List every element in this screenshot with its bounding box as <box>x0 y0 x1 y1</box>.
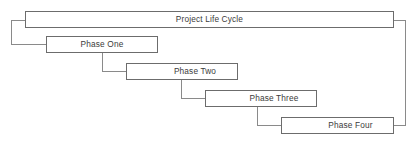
connector-phase-three-to-phase-four <box>258 107 282 126</box>
node-project-life-cycle[interactable]: Project Life Cycle <box>25 11 394 28</box>
node-phase-two[interactable]: Phase Two <box>126 63 238 80</box>
right-bracket-connector <box>394 21 406 126</box>
node-label-phase-two: Phase Two <box>127 67 237 75</box>
node-label-project-life-cycle: Project Life Cycle <box>26 15 393 23</box>
connector-phase-one-to-phase-two <box>103 53 127 72</box>
node-label-phase-one: Phase One <box>47 40 157 48</box>
project-life-cycle-diagram: Project Life Cycle Phase One Phase Two P… <box>0 0 420 142</box>
connector-phase-two-to-phase-three <box>182 80 206 99</box>
node-phase-three[interactable]: Phase Three <box>205 90 317 107</box>
node-label-phase-four: Phase Four <box>282 121 393 129</box>
node-phase-four[interactable]: Phase Four <box>281 117 394 134</box>
node-phase-one[interactable]: Phase One <box>46 36 158 53</box>
node-label-phase-three: Phase Three <box>206 94 316 102</box>
